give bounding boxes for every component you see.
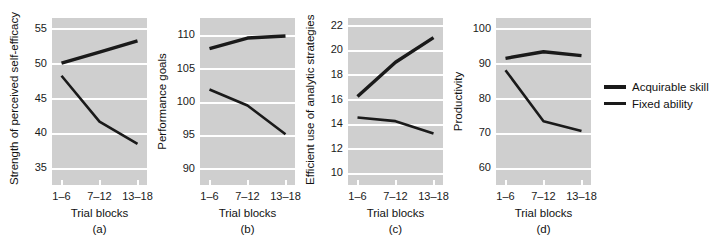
series-line-d-acquirable-skill <box>506 52 582 59</box>
legend-swatch-acquirable-skill <box>604 85 626 89</box>
legend-entry-acquirable-skill: Acquirable skill <box>604 78 709 95</box>
legend-label-acquirable-skill: Acquirable skill <box>632 81 709 93</box>
legend-label-fixed-ability: Fixed ability <box>632 98 693 110</box>
legend: Acquirable skill Fixed ability <box>604 78 709 112</box>
legend-entry-fixed-ability: Fixed ability <box>604 95 709 112</box>
series-line-d-fixed-ability <box>506 70 582 131</box>
legend-swatch-fixed-ability <box>604 102 626 105</box>
